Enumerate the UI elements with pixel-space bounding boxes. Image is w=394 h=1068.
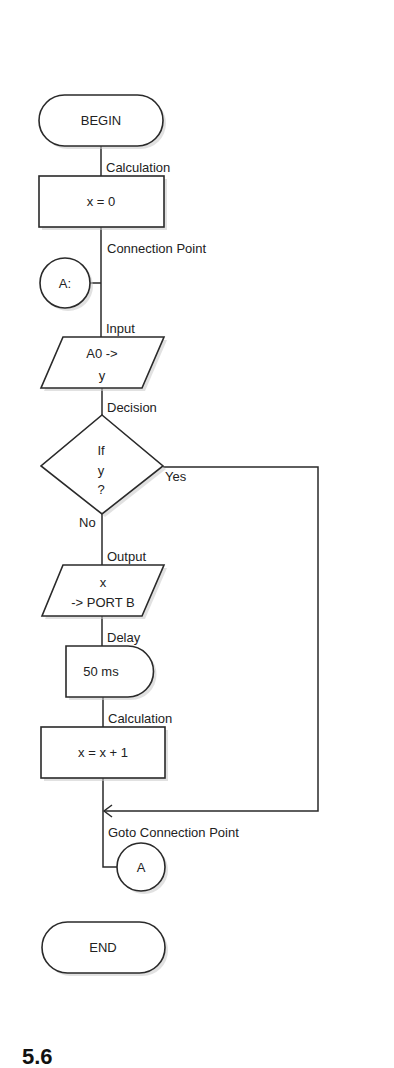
end-text: END xyxy=(89,940,116,955)
calc1-text: x = 0 xyxy=(87,194,116,209)
input-label: Input xyxy=(106,321,135,336)
calc1-label: Calculation xyxy=(106,160,170,175)
decision-text-line3: ? xyxy=(97,482,104,497)
goto-connector-text: A xyxy=(137,860,146,875)
calc2-label: Calculation xyxy=(108,711,172,726)
end-terminal: END xyxy=(42,922,168,976)
decision-text-line2: y xyxy=(98,463,105,478)
connection-point-text: A: xyxy=(59,276,71,291)
output-parallelogram: x -> PORT B xyxy=(42,565,167,619)
begin-text: BEGIN xyxy=(81,113,121,128)
decision-no-label: No xyxy=(79,515,96,530)
connection-point-a-circle: A: xyxy=(40,258,93,311)
input-text-line2: y xyxy=(99,368,106,383)
cropped-page-text-fragment: 5.6 xyxy=(22,1046,53,1068)
input-parallelogram: A0 -> y xyxy=(41,337,167,391)
calc2-process-box: x = x + 1 xyxy=(41,727,168,781)
begin-terminal: BEGIN xyxy=(39,95,166,149)
wire-calc2-goto xyxy=(103,778,117,867)
decision-yes-label: Yes xyxy=(165,469,187,484)
delay-shape: 50 ms xyxy=(66,646,157,700)
output-label: Output xyxy=(107,549,146,564)
delay-label: Delay xyxy=(107,630,141,645)
decision-label: Decision xyxy=(107,400,157,415)
output-text-line2: -> PORT B xyxy=(71,595,134,610)
calc1-process-box: x = 0 xyxy=(39,176,167,230)
input-text-line1: A0 -> xyxy=(86,346,117,361)
connection-point-label: Connection Point xyxy=(107,241,206,256)
decision-text-line1: If xyxy=(97,443,105,458)
delay-text: 50 ms xyxy=(83,664,119,679)
decision-diamond: If y ? xyxy=(41,415,166,517)
calc2-text: x = x + 1 xyxy=(78,745,128,760)
output-text-line1: x xyxy=(100,575,107,590)
goto-connector-a-circle: A xyxy=(117,843,168,894)
goto-connection-label: Goto Connection Point xyxy=(108,825,239,840)
